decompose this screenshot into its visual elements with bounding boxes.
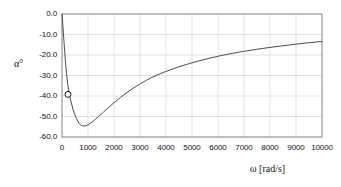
operating-point-marker — [65, 91, 71, 97]
grid-lines — [62, 14, 322, 137]
x-tick-label: 10000 — [305, 143, 339, 152]
y-tick-label: -40.0 — [27, 91, 57, 100]
y-tick-label: -50.0 — [27, 112, 57, 121]
y-tick-label: 0.0 — [27, 9, 57, 18]
y-tick-label: -60.0 — [27, 132, 57, 141]
y-tick-label: -20.0 — [27, 50, 57, 59]
y-tick-label: -10.0 — [27, 30, 57, 39]
y-axis-title: α° — [14, 58, 23, 69]
chart-figure: α° ω [rad/s] 0.0-10.0-20.0-30.0-40.0-50.… — [0, 0, 341, 187]
y-tick-label: -30.0 — [27, 71, 57, 80]
x-axis-title: ω [rad/s] — [250, 163, 285, 174]
